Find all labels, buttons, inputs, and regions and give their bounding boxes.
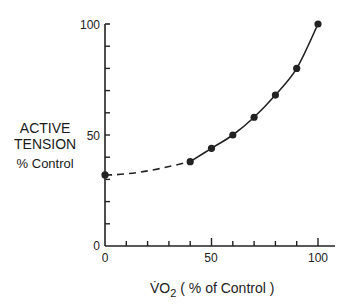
data-point-marker <box>208 145 215 152</box>
data-point-marker <box>187 158 194 165</box>
x-tick-label-0: 0 <box>102 251 109 265</box>
x-tick-label-100: 100 <box>308 251 328 265</box>
x-tick-label-50: 50 <box>204 251 218 265</box>
y-tick-label-50: 50 <box>87 129 101 143</box>
data-point-marker <box>101 171 108 178</box>
data-markers <box>101 20 321 178</box>
x-axis-title-main: V̇O <box>150 280 170 296</box>
series-line-solid <box>190 24 318 162</box>
x-axis-title: V̇O2 ( % of Control ) <box>150 280 274 299</box>
x-axis-title-rest: ( % of Control ) <box>176 280 274 296</box>
x-ticks <box>126 238 318 246</box>
y-tick-label-0: 0 <box>93 239 100 253</box>
chart-plot: 100 50 0 0 50 100 V̇O2 ( % of Control ) <box>0 0 352 305</box>
series-line-dashed <box>105 162 190 175</box>
data-point-marker <box>251 114 258 121</box>
data-point-marker <box>314 20 321 27</box>
data-point-marker <box>293 65 300 72</box>
y-tick-label-100: 100 <box>80 18 100 32</box>
data-point-marker <box>272 91 279 98</box>
data-point-marker <box>229 131 236 138</box>
